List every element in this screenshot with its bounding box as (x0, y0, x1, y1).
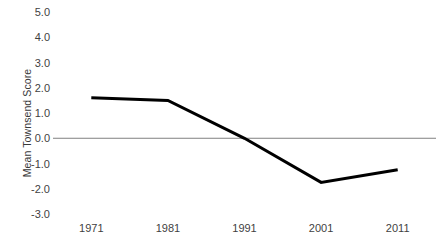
x-tick-label: 1971 (79, 222, 103, 234)
x-tick-label: 1991 (232, 222, 256, 234)
x-axis-tick-labels: 1971 1981 1991 2001 2011 (0, 0, 441, 246)
x-tick-label: 2011 (386, 222, 410, 234)
x-tick-label: 2001 (309, 222, 333, 234)
x-tick-label: 1981 (156, 222, 180, 234)
line-chart: Mean Townsend Score 5.0 4.0 3.0 2.0 1.0 … (0, 0, 441, 246)
